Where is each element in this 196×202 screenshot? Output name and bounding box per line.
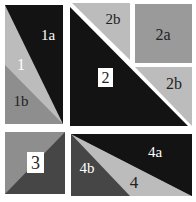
- panel-2: 2b 2a 2b 2: [70, 3, 192, 126]
- label-3: 3: [31, 153, 40, 173]
- label-4b: 4b: [80, 160, 95, 176]
- label-2: 2: [102, 69, 110, 86]
- label-2b-right: 2b: [166, 75, 182, 92]
- label-1b: 1b: [14, 93, 29, 109]
- quilt-diagram: 1a 1 1b 2b 2a 2b 2 3 4a 4b 4: [0, 0, 196, 202]
- label-1: 1: [17, 56, 25, 73]
- panel-1: 1a 1 1b: [5, 5, 63, 124]
- panel-4: 4a 4b 4: [71, 134, 192, 196]
- label-4a: 4a: [148, 144, 163, 160]
- label-4: 4: [130, 173, 139, 192]
- panel-3: 3: [5, 132, 65, 194]
- label-2a: 2a: [155, 26, 170, 43]
- label-1a: 1a: [41, 27, 56, 43]
- label-2b-top: 2b: [106, 11, 121, 27]
